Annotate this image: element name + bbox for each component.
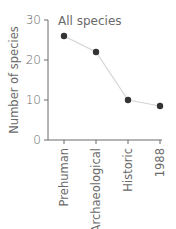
y-ticks: 0102030 xyxy=(26,13,48,147)
x-category-label: Archaeological xyxy=(89,148,103,229)
y-tick-label: 10 xyxy=(26,93,41,107)
series-markers xyxy=(61,33,163,109)
x-category-label: Historic xyxy=(121,148,135,192)
y-tick-label: 20 xyxy=(26,53,41,67)
x-category-label: 1988 xyxy=(153,148,167,177)
series-title: All species xyxy=(58,14,122,28)
x-ticks: PrehumanArchaeologicalHistoric1988 xyxy=(57,140,167,229)
y-axis-label: Number of species xyxy=(7,26,21,134)
data-point xyxy=(61,33,67,39)
data-point xyxy=(157,103,163,109)
y-tick-label: 30 xyxy=(26,13,41,27)
data-point xyxy=(125,97,131,103)
series-line xyxy=(64,36,160,106)
x-category-label: Prehuman xyxy=(57,148,71,206)
line-chart: Number of species 0102030 PrehumanArchae… xyxy=(0,0,176,229)
y-tick-label: 0 xyxy=(33,133,41,147)
data-point xyxy=(93,49,99,55)
